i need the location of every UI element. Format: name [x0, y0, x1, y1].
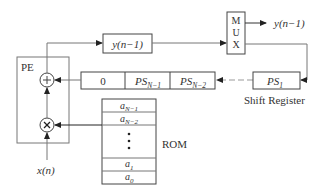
adder-icon [40, 73, 54, 87]
output-label: y(n−1) [273, 17, 305, 30]
rom-label: ROM [162, 138, 187, 150]
adder-to-register-wire [47, 43, 102, 73]
fir-filter-diagram: PE x(n) y(n−1) M U X y(n−1) 0 PS [0, 0, 328, 194]
rom: aN−1 aN−2 a1 a0 [102, 99, 156, 185]
shift-register-label: Shift Register [244, 94, 305, 106]
feedback-register-label: y(n−1) [111, 38, 143, 51]
mux-letter-u: U [232, 27, 240, 38]
shift-register: 0 PSN−1 PSN−2 [81, 72, 215, 90]
shift-cell-0: 0 [100, 75, 106, 87]
input-label: x(n) [36, 164, 55, 177]
mux-letter-x: X [232, 39, 240, 50]
mux-letter-m: M [232, 15, 241, 26]
multiplier-icon [40, 118, 54, 132]
pe-label: PE [21, 61, 34, 73]
